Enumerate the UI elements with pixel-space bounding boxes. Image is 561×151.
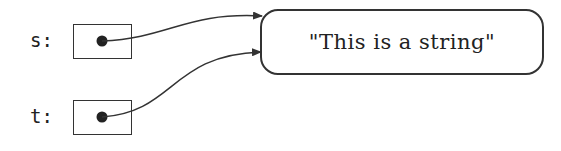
arrow-s-to-string [102, 16, 262, 41]
arrow-t-to-string [102, 52, 261, 117]
reference-arrows [0, 0, 561, 151]
